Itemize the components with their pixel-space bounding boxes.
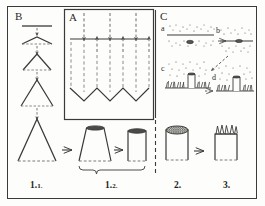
sawtooth-wetting-front xyxy=(70,88,149,101)
infiltration-arrows-down xyxy=(84,13,136,41)
stipple-c xyxy=(169,61,207,76)
arrow-cb-to-cc xyxy=(211,56,228,71)
step-label-1-1: 1.1. xyxy=(30,180,42,190)
panel-label-b: B xyxy=(15,10,23,22)
brace-step-12 xyxy=(79,166,145,174)
step-label-2-main: 2. xyxy=(174,180,181,190)
seed-ca xyxy=(187,40,194,43)
sublabel-c-b: b xyxy=(216,26,220,35)
sublabel-c-c: c xyxy=(161,64,165,73)
cylinder-shape-3 xyxy=(215,134,237,160)
step-2-content xyxy=(166,126,204,160)
step-label-1-1-sub: 1. xyxy=(37,182,42,190)
stage-shallow-chevron xyxy=(22,37,52,44)
panel-c-b-block xyxy=(220,27,253,52)
panel-c-a-block xyxy=(167,23,216,48)
panel-c-c-block xyxy=(165,61,211,88)
sublabel-c-d: d xyxy=(212,73,216,82)
panel-a-content xyxy=(70,13,149,101)
frustum-shape xyxy=(79,126,111,161)
small-cylinder-d xyxy=(233,76,240,91)
stage-final-cone xyxy=(18,119,56,161)
panel-b-content xyxy=(18,26,56,161)
stage-tall-triangle xyxy=(21,80,53,106)
stage-medium-triangle xyxy=(23,54,51,70)
small-cylinder-c xyxy=(188,73,195,88)
step-3-content xyxy=(215,125,237,160)
step-12-content xyxy=(79,126,146,174)
panel-label-c: C xyxy=(160,10,168,22)
step-label-3: 3. xyxy=(223,180,230,190)
figure-drawing-layer xyxy=(0,0,265,206)
panel-c-d-block xyxy=(216,65,254,91)
sublabel-c-a: a xyxy=(161,24,165,33)
step-label-1-2: 1.2. xyxy=(105,180,117,190)
panel-label-a: A xyxy=(69,11,77,23)
seed-cb xyxy=(236,39,243,42)
step-label-1-2-sub: 2. xyxy=(112,182,117,190)
sprouting-grass-3 xyxy=(216,125,237,134)
percolation-lines xyxy=(71,42,149,92)
mesh-top-2 xyxy=(166,126,188,134)
step-label-3-main: 3. xyxy=(223,180,230,190)
figure-root: B A C a b c d 1.1. 1.2. 2. 3. xyxy=(0,0,265,206)
panel-a-box xyxy=(65,10,154,120)
cylinder-shape-12 xyxy=(128,129,146,161)
step-label-2: 2. xyxy=(174,180,181,190)
panel-c-content xyxy=(165,23,254,91)
